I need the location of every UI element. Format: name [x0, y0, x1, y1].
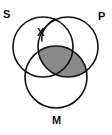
circle-label-m: M [52, 115, 61, 126]
circle-label-p: P [98, 11, 105, 22]
annotation-label-x: X [37, 27, 44, 38]
venn-diagram: S P M X [0, 0, 112, 135]
circle-label-s: S [3, 9, 10, 20]
